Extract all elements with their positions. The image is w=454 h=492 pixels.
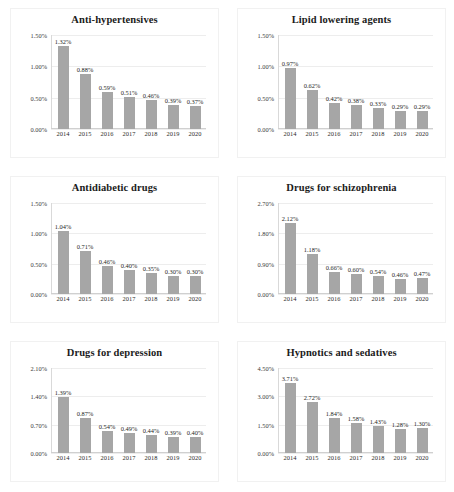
bar (417, 111, 428, 129)
x-axis-tick: 2018 (367, 295, 389, 306)
chart-frame: Antidiabetic drugs1.50%1.00%0.50%0.00%1.… (10, 176, 219, 323)
bar-cell: 0.54% (96, 368, 118, 453)
chart-title: Drugs for depression (11, 347, 218, 358)
bar-value-label: 0.51% (121, 89, 138, 96)
y-axis-tick: 1.00% (257, 63, 274, 70)
x-axis-labels: 2014201520162017201820192020 (279, 130, 433, 141)
bar-cell: 0.97% (279, 35, 301, 129)
bar (285, 223, 296, 294)
bar (373, 426, 384, 453)
bar-series: 1.32%0.88%0.59%0.51%0.46%0.39%0.37% (52, 35, 206, 129)
chart-title: Anti-hypertensives (11, 14, 218, 25)
chart-title: Lipid lowering agents (238, 14, 445, 25)
bar (395, 111, 406, 129)
bar (190, 106, 201, 129)
bar (58, 46, 69, 129)
bar-value-label: 0.59% (99, 84, 116, 91)
x-axis-tick: 2014 (52, 454, 74, 465)
x-axis-tick: 2019 (389, 295, 411, 306)
x-axis-tick: 2017 (345, 454, 367, 465)
bar-cell: 0.60% (345, 203, 367, 294)
y-axis-tick: 0.00% (30, 291, 47, 298)
bar (285, 383, 296, 453)
bar-value-label: 0.33% (370, 100, 387, 107)
bar (124, 97, 135, 129)
x-axis-tick: 2015 (74, 130, 96, 141)
x-axis-tick: 2016 (96, 295, 118, 306)
y-axis-tick: 3.00% (257, 393, 274, 400)
y-axis-tick: 0.00% (257, 126, 274, 133)
bar-cell: 0.46% (96, 203, 118, 294)
y-axis-tick: 1.80% (257, 230, 274, 237)
bar-cell: 1.43% (367, 368, 389, 453)
bar (146, 273, 157, 294)
y-axis-tick: 1.00% (30, 230, 47, 237)
x-axis-tick: 2020 (411, 295, 433, 306)
y-axis-tick: 1.50% (30, 32, 47, 39)
bar-value-label: 0.66% (326, 264, 343, 271)
x-axis-labels: 2014201520162017201820192020 (52, 295, 206, 306)
bar-value-label: 0.39% (165, 429, 182, 436)
bar-cell: 0.39% (162, 35, 184, 129)
chart-title: Hypnotics and sedatives (238, 347, 445, 358)
x-axis-tick: 2020 (184, 454, 206, 465)
y-axis-tick: 2.70% (257, 200, 274, 207)
bar-cell: 0.44% (140, 368, 162, 453)
bar-cell: 0.38% (345, 35, 367, 129)
bar-cell: 1.58% (345, 368, 367, 453)
y-axis-tick: 0.50% (30, 94, 47, 101)
bar-cell: 0.59% (96, 35, 118, 129)
bar-value-label: 0.46% (392, 271, 409, 278)
x-axis-tick: 2014 (279, 130, 301, 141)
y-axis-labels: 1.50%1.00%0.50%0.00% (240, 35, 276, 129)
bar-cell: 0.39% (162, 368, 184, 453)
bar-value-label: 2.72% (304, 394, 321, 401)
bar-value-label: 0.47% (414, 270, 431, 277)
bar-value-label: 2.12% (282, 215, 299, 222)
bar (373, 276, 384, 294)
bar-cell: 1.39% (52, 368, 74, 453)
plot-area: 2.12%1.18%0.66%0.60%0.54%0.46%0.47% (278, 203, 433, 294)
bar (307, 254, 318, 294)
bar-value-label: 0.44% (143, 427, 160, 434)
x-axis-tick: 2016 (323, 130, 345, 141)
bar-series: 2.12%1.18%0.66%0.60%0.54%0.46%0.47% (279, 203, 433, 294)
bar-value-label: 0.30% (165, 268, 182, 275)
bar (417, 278, 428, 294)
y-axis-tick: 0.00% (30, 450, 47, 457)
bar-cell: 1.32% (52, 35, 74, 129)
x-axis-labels: 2014201520162017201820192020 (52, 454, 206, 465)
bar-value-label: 0.42% (326, 95, 343, 102)
x-axis-labels: 2014201520162017201820192020 (279, 295, 433, 306)
bar-value-label: 0.46% (143, 92, 160, 99)
y-axis-tick: 1.50% (257, 32, 274, 39)
bar (395, 279, 406, 295)
x-axis-labels: 2014201520162017201820192020 (279, 454, 433, 465)
bar-cell: 0.54% (367, 203, 389, 294)
y-axis-labels: 1.50%1.00%0.50%0.00% (13, 35, 49, 129)
bar-value-label: 0.62% (304, 82, 321, 89)
x-axis-tick: 2016 (96, 454, 118, 465)
bar-value-label: 1.04% (55, 223, 72, 230)
x-axis-tick: 2017 (345, 295, 367, 306)
bar-value-label: 1.43% (370, 418, 387, 425)
plot-area: 1.04%0.71%0.46%0.40%0.35%0.30%0.30% (51, 203, 206, 294)
bar-value-label: 1.58% (348, 415, 365, 422)
y-axis-tick: 1.50% (257, 421, 274, 428)
bar-cell: 0.46% (140, 35, 162, 129)
x-axis-labels: 2014201520162017201820192020 (52, 130, 206, 141)
bar (58, 231, 69, 294)
bar-value-label: 0.87% (77, 410, 94, 417)
bar-value-label: 0.35% (143, 265, 160, 272)
bar-value-label: 0.54% (99, 423, 116, 430)
bar (168, 276, 179, 294)
y-axis-tick: 0.00% (257, 291, 274, 298)
bar-value-label: 0.46% (99, 258, 116, 265)
bar-cell: 0.66% (323, 203, 345, 294)
bar (351, 105, 362, 129)
plot-area: 1.39%0.87%0.54%0.49%0.44%0.39%0.40% (51, 368, 206, 453)
bar-cell: 0.40% (118, 203, 140, 294)
bar-value-label: 0.60% (348, 266, 365, 273)
x-axis-tick: 2014 (279, 454, 301, 465)
y-axis-tick: 0.50% (257, 94, 274, 101)
